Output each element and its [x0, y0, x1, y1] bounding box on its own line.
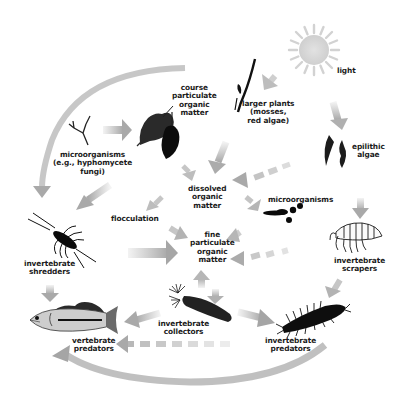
label-invertebrate-scrapers: invertebrate scrapers [334, 257, 385, 274]
arrow-collectors-to-fpom [193, 270, 210, 288]
caddisfly-collector-icon [169, 284, 232, 322]
arrow-fpom-to-collectors [207, 289, 224, 304]
label-flocculation: flocculation [111, 215, 159, 223]
arrow-scrapers-to-fpom-dashed [230, 247, 289, 266]
label-course-particulate-organic-matter: course particulate organic matter [172, 84, 217, 118]
arrow-algae-to-dom-dashed [232, 162, 291, 188]
label-invertebrate-shredders: invertebrate shredders [24, 260, 75, 277]
label-dissolved-organic-matter: dissolved organic matter [188, 185, 226, 210]
hellgrammite-predator-icon [276, 301, 351, 338]
amphipod-scraper-icon [330, 223, 382, 253]
label-microorganisms: microorganisms [268, 196, 333, 204]
arrow-collectors-to-invert-predators [238, 309, 275, 327]
label-invertebrate-collectors: invertebrate collectors [158, 320, 209, 337]
label-light: light [337, 67, 356, 75]
hyphomycete-fungi-icon [69, 116, 90, 145]
label-larger-plants: larger plants (mosses, red algae) [242, 100, 294, 125]
microorganisms-icon [263, 203, 303, 223]
arrow-shredders-to-fpom [128, 240, 178, 265]
arrow-shredders-to-fish [41, 285, 59, 302]
arrow-collectors-to-fish [124, 311, 160, 328]
label-fine-particulate-organic-matter: fine particulate organic matter [190, 231, 235, 265]
arrow-dom-to-microorganisms [246, 197, 261, 211]
arrow-light-to-algae [330, 102, 348, 130]
arrow-fungi-to-shredders [76, 185, 110, 210]
label-microorganisms-fungi: microorganisms (e.g., hyphomycete fungi) [53, 151, 132, 176]
arrow-light-to-larger-plants [262, 74, 278, 90]
arrow-scrapers-to-invert-predators [325, 280, 341, 298]
arrow-course-pom-to-dom [182, 166, 196, 181]
arrow-dom-to-flocculation [146, 197, 162, 211]
fish-vertebrate-predator-icon [30, 302, 118, 334]
arrow-flocculation-to-fpom [170, 226, 188, 240]
arrow-invert-predators-to-fish-dashed [116, 335, 230, 353]
arrow-larger-plants-to-dom [208, 142, 226, 174]
arrow-algae-to-scrapers [352, 198, 369, 219]
label-invertebrate-predators: invertebrate predators [265, 337, 316, 354]
epilithic-algae-icon [325, 135, 347, 168]
label-vertebrate-predators: vertebrate predators [72, 337, 116, 354]
sun-icon [289, 25, 339, 75]
label-epilithic-algae: epilithic algae [352, 143, 385, 160]
arrow-fungi-to-course-pom [103, 119, 132, 141]
